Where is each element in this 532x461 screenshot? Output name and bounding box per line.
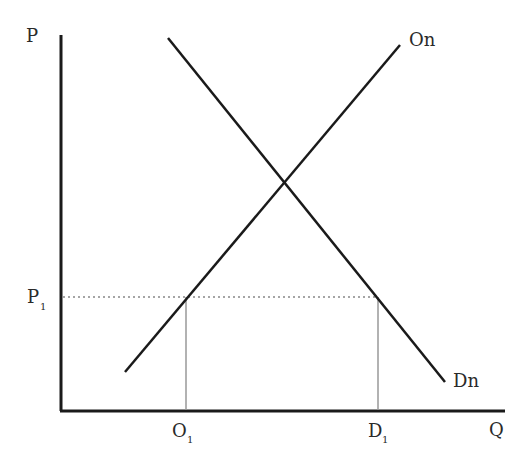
y-axis-label: P (26, 25, 38, 46)
d1-subscript: 1 (382, 434, 388, 445)
p1-subscript: 1 (40, 301, 46, 312)
demand-curve (168, 38, 445, 382)
x-axis-label: Q (489, 419, 504, 440)
demand-curve-label: Dn (453, 370, 479, 391)
d1-label: D (368, 420, 382, 441)
supply-curve-label: On (409, 29, 436, 50)
o1-label: O (172, 420, 187, 441)
supply-curve (125, 45, 400, 372)
p1-label: P (27, 286, 39, 307)
o1-subscript: 1 (187, 434, 193, 445)
supply-demand-diagram: P Q On Dn P 1 O 1 D 1 (0, 0, 532, 461)
